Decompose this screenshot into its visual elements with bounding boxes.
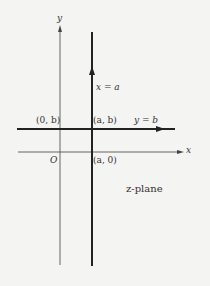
vertical-line-arrow-icon [89, 66, 95, 75]
plane-label: z-plane [126, 184, 163, 194]
vertical-line-label: x = a [96, 83, 120, 92]
y-axis-label: y [57, 14, 62, 23]
horizontal-line-arrow-icon [156, 126, 165, 132]
origin-label: O [50, 156, 57, 165]
point-a-b-label: (a, b) [93, 116, 117, 125]
x-axis-arrow-icon [177, 150, 184, 154]
y-axis-arrow-icon [58, 25, 62, 32]
z-plane-diagram [0, 0, 210, 286]
x-axis-label: x [186, 146, 191, 155]
point-a-0-label: (a, 0) [93, 156, 117, 165]
point-0-b-label: (0, b) [36, 116, 60, 125]
horizontal-line-label: y = b [134, 116, 158, 125]
